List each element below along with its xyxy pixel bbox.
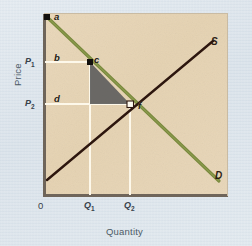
x-tick-label-q2: Q2	[124, 200, 135, 212]
x-tick-q2-text: Q	[124, 200, 131, 210]
point-marker-c	[87, 59, 93, 65]
x-tick-q1-sub: 1	[91, 205, 95, 212]
x-tick-q2-sub: 2	[131, 205, 135, 212]
x-axis-spine	[43, 194, 228, 197]
y-axis-spine	[43, 14, 46, 197]
point-marker-f	[127, 101, 134, 108]
point-label-a: a	[54, 11, 59, 22]
point-marker-a	[44, 14, 50, 20]
y-tick-p2-sub: 2	[31, 103, 35, 110]
y-tick-label-p1: P1	[25, 56, 35, 68]
demand-curve-label: D	[215, 170, 222, 181]
y-tick-p1-sub: 1	[31, 61, 35, 68]
y-axis-title: Price	[12, 63, 23, 86]
point-label-b: b	[54, 52, 60, 63]
supply-demand-figure: Price Quantity 0 P1 P2 Q1 Q2 a b c d f S…	[0, 0, 252, 246]
y-tick-label-p2: P2	[25, 98, 35, 110]
x-axis-title: Quantity	[106, 226, 143, 237]
x-tick-q1-text: Q	[84, 200, 91, 210]
point-label-c: c	[94, 54, 99, 65]
point-label-d: d	[54, 93, 60, 104]
x-tick-label-q1: Q1	[84, 200, 95, 212]
supply-curve-label: S	[211, 36, 218, 47]
point-label-f: f	[138, 100, 141, 111]
axis-origin-label: 0	[38, 200, 43, 211]
